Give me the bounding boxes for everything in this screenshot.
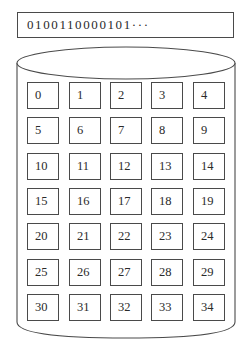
cell-label: 23 — [159, 229, 172, 244]
cell-label: 20 — [35, 229, 48, 244]
cell-label: 1 — [77, 88, 83, 103]
memory-cell: 34 — [193, 294, 225, 321]
cell-label: 8 — [159, 123, 165, 138]
cell-label: 11 — [77, 159, 89, 174]
cell-label: 22 — [118, 229, 131, 244]
memory-cell: 18 — [151, 188, 183, 215]
memory-cell: 7 — [110, 117, 142, 144]
memory-cell: 2 — [110, 82, 142, 109]
memory-cell: 32 — [110, 294, 142, 321]
cell-label: 9 — [201, 123, 207, 138]
cell-label: 18 — [159, 194, 172, 209]
cell-label: 17 — [118, 194, 131, 209]
memory-cell: 22 — [110, 223, 142, 250]
memory-cell: 26 — [69, 259, 101, 286]
memory-cell: 23 — [151, 223, 183, 250]
memory-cell: 20 — [27, 223, 59, 250]
cell-label: 33 — [159, 300, 172, 315]
memory-cell: 1 — [69, 82, 101, 109]
memory-cell: 4 — [193, 82, 225, 109]
memory-cell: 15 — [27, 188, 59, 215]
memory-cell: 0 — [27, 82, 59, 109]
memory-cell: 3 — [151, 82, 183, 109]
memory-cell: 10 — [27, 153, 59, 180]
cell-label: 10 — [35, 159, 48, 174]
memory-cell: 17 — [110, 188, 142, 215]
cell-label: 32 — [118, 300, 131, 315]
memory-cell: 24 — [193, 223, 225, 250]
cell-label: 31 — [77, 300, 90, 315]
cell-label: 12 — [118, 159, 131, 174]
memory-cell: 8 — [151, 117, 183, 144]
cell-label: 7 — [118, 123, 124, 138]
memory-cell: 6 — [69, 117, 101, 144]
memory-cell: 29 — [193, 259, 225, 286]
cell-label: 21 — [77, 229, 90, 244]
memory-cell: 9 — [193, 117, 225, 144]
memory-cell: 27 — [110, 259, 142, 286]
memory-cell: 11 — [69, 153, 101, 180]
memory-cell: 31 — [69, 294, 101, 321]
cell-label: 19 — [201, 194, 214, 209]
cell-label: 26 — [77, 265, 90, 280]
cell-label: 6 — [77, 123, 83, 138]
cell-label: 25 — [35, 265, 48, 280]
memory-cell: 19 — [193, 188, 225, 215]
cell-label: 5 — [35, 123, 41, 138]
cell-label: 28 — [159, 265, 172, 280]
cell-label: 2 — [118, 88, 124, 103]
memory-cell: 30 — [27, 294, 59, 321]
cell-label: 29 — [201, 265, 214, 280]
cell-label: 30 — [35, 300, 48, 315]
cell-label: 0 — [35, 88, 41, 103]
cell-label: 14 — [201, 159, 214, 174]
memory-cell: 33 — [151, 294, 183, 321]
memory-cell: 28 — [151, 259, 183, 286]
cell-label: 3 — [159, 88, 165, 103]
cell-label: 13 — [159, 159, 172, 174]
memory-cell: 13 — [151, 153, 183, 180]
memory-cell: 5 — [27, 117, 59, 144]
cell-label: 24 — [201, 229, 214, 244]
memory-cell: 21 — [69, 223, 101, 250]
cell-label: 27 — [118, 265, 131, 280]
cell-label: 16 — [77, 194, 90, 209]
memory-cell: 16 — [69, 188, 101, 215]
cell-label: 34 — [201, 300, 214, 315]
cell-label: 15 — [35, 194, 48, 209]
memory-cell: 14 — [193, 153, 225, 180]
cell-label: 4 — [201, 88, 207, 103]
memory-cell: 25 — [27, 259, 59, 286]
memory-cell: 12 — [110, 153, 142, 180]
